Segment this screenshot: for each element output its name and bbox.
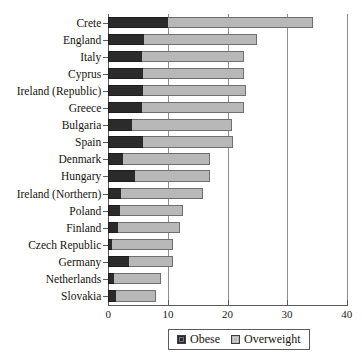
category-label: Netherlands	[46, 273, 102, 286]
stacked-bar	[108, 170, 209, 181]
bar-segment-overweight	[143, 136, 234, 147]
x-tick-label-40: 40	[341, 308, 352, 320]
bar-segment-obese	[108, 17, 168, 28]
x-tick-mark-40	[347, 300, 348, 306]
bar-segment-overweight	[142, 102, 245, 113]
chart-legend: ObeseOverweight	[168, 329, 310, 350]
legend-swatch-overweight	[231, 335, 240, 344]
bar-segment-obese	[108, 170, 135, 181]
legend-entry: Overweight	[231, 332, 301, 346]
bar-segment-overweight	[123, 153, 210, 164]
category-label: Spain	[75, 136, 101, 149]
bar-segment-overweight	[114, 273, 162, 284]
category-label: Bulgaria	[62, 119, 102, 132]
bar-segment-obese	[108, 34, 144, 45]
stacked-bar	[108, 102, 244, 113]
stacked-bar	[108, 119, 232, 130]
bar-segment-overweight	[168, 17, 313, 28]
stacked-bar-chart: 010203040 CreteEnglandItalyCyprusIreland…	[0, 0, 363, 360]
bar-segment-overweight	[112, 239, 173, 250]
stacked-bar	[108, 239, 173, 250]
stacked-bar	[108, 136, 233, 147]
bar-segment-overweight	[116, 290, 156, 301]
bar-segment-obese	[108, 102, 141, 113]
legend-label-obese: Obese	[190, 332, 220, 346]
stacked-bar	[108, 153, 210, 164]
bar-row: Cyprus	[108, 65, 346, 82]
bar-segment-obese	[108, 85, 143, 96]
gridline-40	[347, 14, 348, 305]
bar-row: Spain	[108, 134, 346, 151]
bar-row: Ireland (Republic)	[108, 82, 346, 99]
stacked-bar	[108, 51, 244, 62]
bar-segment-overweight	[143, 68, 244, 79]
category-label: Slovakia	[61, 290, 101, 303]
bar-segment-obese	[108, 119, 132, 130]
category-label: Italy	[80, 50, 101, 63]
legend-entry: Obese	[177, 332, 220, 346]
bar-row: Poland	[108, 202, 346, 219]
bar-row: Slovakia	[108, 288, 346, 305]
category-label: Czech Republic	[28, 238, 101, 251]
category-label: Germany	[59, 255, 102, 268]
bar-row: Ireland (Northern)	[108, 185, 346, 202]
bar-segment-obese	[108, 222, 118, 233]
bar-segment-obese	[108, 188, 121, 199]
bar-segment-overweight	[118, 222, 181, 233]
stacked-bar	[108, 222, 180, 233]
bar-row: Hungary	[108, 168, 346, 185]
bar-segment-obese	[108, 51, 141, 62]
stacked-bar	[108, 290, 156, 301]
stacked-bar	[108, 188, 203, 199]
bar-row: Denmark	[108, 151, 346, 168]
stacked-bar	[108, 17, 313, 28]
stacked-bar	[108, 273, 161, 284]
bar-segment-overweight	[132, 119, 232, 130]
bar-segment-overweight	[135, 170, 210, 181]
bar-row: Greece	[108, 100, 346, 117]
x-tick-label-0: 0	[106, 308, 112, 320]
category-label: Greece	[69, 102, 102, 115]
bar-segment-overweight	[120, 205, 184, 216]
bar-row: Finland	[108, 219, 346, 236]
bar-segment-obese	[108, 290, 116, 301]
bar-row: Germany	[108, 253, 346, 270]
bar-segment-obese	[108, 256, 128, 267]
legend-label-overweight: Overweight	[244, 332, 301, 346]
category-label: England	[63, 33, 101, 46]
category-label: Ireland (Republic)	[17, 84, 102, 97]
stacked-bar	[108, 85, 246, 96]
bar-segment-overweight	[143, 85, 246, 96]
bar-segment-overweight	[129, 256, 174, 267]
bar-segment-obese	[108, 68, 143, 79]
bar-segment-obese	[108, 153, 123, 164]
stacked-bar	[108, 68, 244, 79]
category-label: Finland	[66, 221, 101, 234]
category-label: Crete	[76, 16, 101, 29]
category-label: Denmark	[59, 153, 102, 166]
x-tick-label-30: 30	[282, 308, 293, 320]
category-label: Ireland (Northern)	[17, 187, 102, 200]
bar-row: Italy	[108, 48, 346, 65]
bar-segment-overweight	[142, 51, 245, 62]
bar-row: Bulgaria	[108, 117, 346, 134]
stacked-bar	[108, 205, 183, 216]
bar-row: Netherlands	[108, 271, 346, 288]
legend-swatch-obese	[177, 335, 186, 344]
bar-segment-overweight	[121, 188, 203, 199]
category-label: Hungary	[61, 170, 101, 183]
category-label: Cyprus	[68, 67, 101, 80]
category-label: Poland	[69, 204, 101, 217]
bar-row: England	[108, 31, 346, 48]
stacked-bar	[108, 34, 257, 45]
x-tick-label-10: 10	[162, 308, 173, 320]
bar-row: Crete	[108, 14, 346, 31]
bar-segment-overweight	[144, 34, 257, 45]
stacked-bar	[108, 256, 173, 267]
bar-segment-obese	[108, 136, 143, 147]
x-tick-label-20: 20	[222, 308, 233, 320]
bar-segment-obese	[108, 205, 119, 216]
bar-row: Czech Republic	[108, 236, 346, 253]
